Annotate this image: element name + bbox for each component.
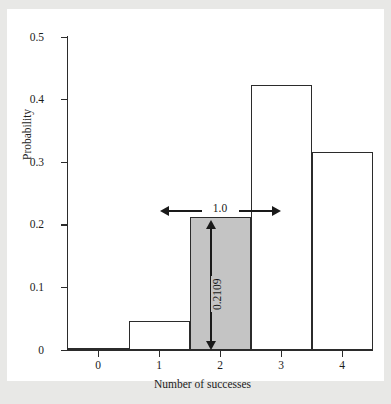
- x-tick-3: [281, 351, 282, 357]
- bar-4: [312, 152, 373, 350]
- x-tick-4: [342, 351, 343, 357]
- y-axis-line: [67, 36, 68, 351]
- y-tick-label-2: 0.2: [30, 219, 44, 231]
- arrow-up-icon: [206, 220, 216, 229]
- x-tick-label-1: 1: [139, 360, 179, 372]
- x-tick-1: [159, 351, 160, 357]
- x-tick-2: [220, 351, 221, 357]
- y-tick-1: [61, 287, 67, 288]
- bar-height-annotation: 0.2109: [204, 220, 218, 350]
- x-tick-label-2: 2: [200, 360, 240, 372]
- y-tick-4: [61, 99, 67, 100]
- bar-width-annotation-label: 1.0: [160, 202, 281, 214]
- x-tick-label-0: 0: [78, 360, 118, 372]
- y-tick-5: [61, 37, 67, 38]
- x-tick-label-3: 3: [261, 360, 301, 372]
- bar-1: [129, 321, 190, 350]
- y-tick-label-4: 0.4: [30, 94, 44, 106]
- y-tick-label-1: 0.1: [30, 282, 44, 294]
- x-tick-0: [98, 351, 99, 357]
- figure-page: 0 0.1 0.2 0.3 0.4 0.5 0 1 2 3 4 1.0: [0, 0, 391, 404]
- y-tick-label-0: 0: [38, 345, 44, 357]
- bar-height-annotation-label: 0.2109: [211, 276, 224, 312]
- bar-width-annotation: 1.0: [160, 204, 281, 218]
- y-axis-title: Probability: [21, 109, 33, 160]
- x-axis-title: Number of successes: [7, 378, 391, 390]
- y-tick-label-5: 0.5: [30, 32, 44, 44]
- y-tick-2: [61, 224, 67, 225]
- y-tick-0: [61, 350, 67, 351]
- chart-panel: 0 0.1 0.2 0.3 0.4 0.5 0 1 2 3 4 1.0: [7, 9, 384, 381]
- arrow-down-icon: [206, 341, 216, 350]
- x-tick-label-4: 4: [322, 360, 362, 372]
- y-tick-3: [61, 162, 67, 163]
